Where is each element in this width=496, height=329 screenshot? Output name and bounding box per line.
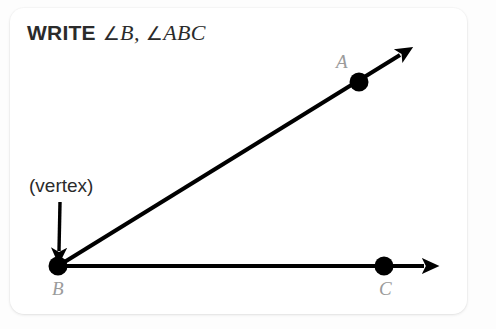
point-a-dot <box>350 73 369 92</box>
point-b-dot <box>49 257 68 276</box>
point-label-a: A <box>336 52 348 71</box>
vertex-pointer-arrow <box>59 202 60 251</box>
point-label-c: C <box>379 279 392 298</box>
page-background: WRITE∠B, ∠ABC (vertex) A B C <box>0 0 496 329</box>
point-c-dot <box>375 257 394 276</box>
angle-diagram <box>0 0 496 329</box>
point-label-b: B <box>52 279 64 298</box>
ray-ba <box>58 55 400 266</box>
